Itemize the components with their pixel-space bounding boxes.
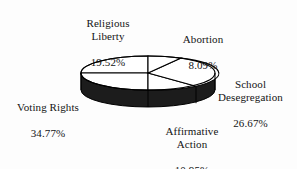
slice-label-religious-liberty: Religious Liberty 19.52% [62,4,154,82]
slice-label-voting-rights-percent: 34.77% [2,127,94,140]
pie-chart-figure: Religious Liberty 19.52% Abortion 8.09% … [0,0,297,169]
slice-label-school-desegregation-name: School Desegregation [204,78,297,104]
slice-label-religious-liberty-name: Religious Liberty [62,17,154,43]
slice-label-abortion-name: Abortion [162,33,244,46]
slice-label-affirmative-action-percent: 10.95% [146,164,238,169]
slice-label-religious-liberty-percent: 19.52% [62,56,154,69]
slice-label-affirmative-action-name: Affirmative Action [146,125,238,151]
slice-label-voting-rights: Voting Rights 34.77% [2,88,94,153]
slice-label-affirmative-action: Affirmative Action 10.95% [146,112,238,169]
slice-label-voting-rights-name: Voting Rights [2,101,94,114]
